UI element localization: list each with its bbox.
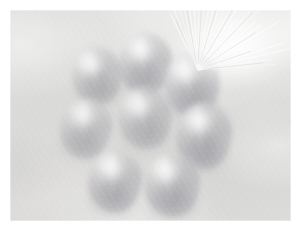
photograph [10,10,291,221]
plate-edge [10,10,291,221]
screenshot-canvas [0,0,302,231]
